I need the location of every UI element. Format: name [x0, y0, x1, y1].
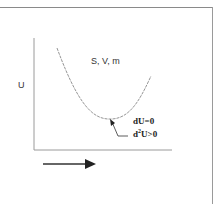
- energy-diagram: [0, 0, 219, 204]
- pointer-arrowhead: [110, 119, 115, 126]
- annotation-second-derivative: d2U>0: [133, 128, 157, 139]
- annotation-first-derivative: dU=0: [133, 116, 154, 126]
- pointer-line: [112, 122, 128, 136]
- y-axis-label: U: [18, 80, 25, 90]
- annotation-rest: U>0: [141, 129, 157, 139]
- curve-label: S, V, m: [91, 56, 120, 66]
- direction-arrowhead: [85, 159, 96, 169]
